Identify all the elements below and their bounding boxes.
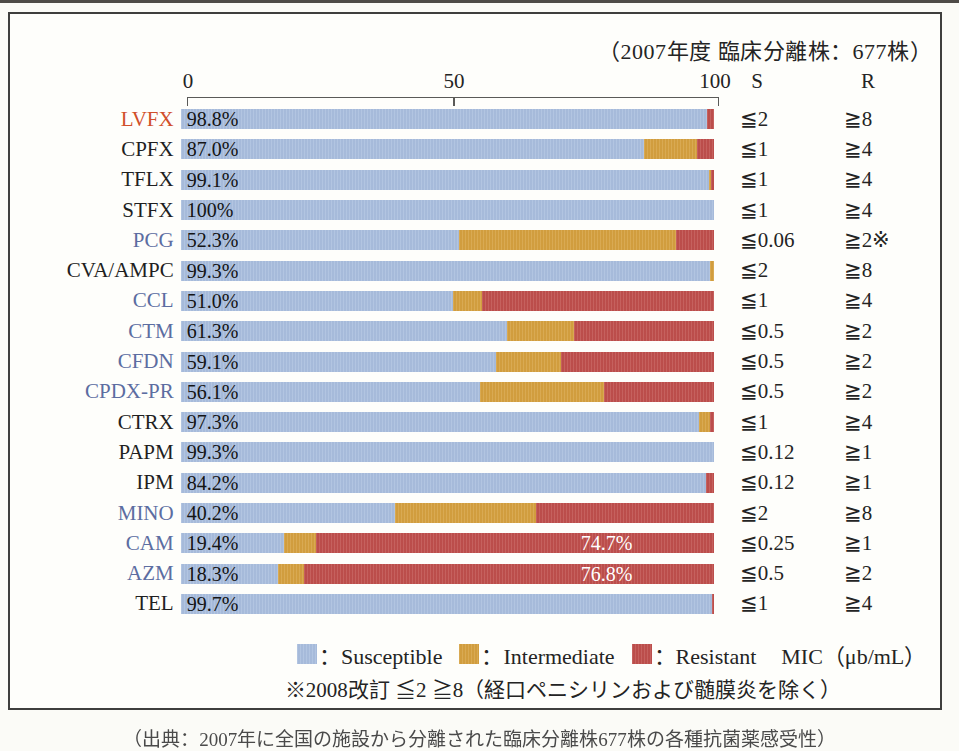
susceptible-segment (181, 200, 714, 220)
intermediate-segment (395, 503, 536, 523)
stacked-bar: 97.3% (181, 412, 714, 432)
drug-label: CTRX (10, 410, 174, 435)
legend-label-intermediate: ：Intermediate (481, 638, 614, 670)
resistant-segment (561, 352, 714, 372)
stacked-bar: 59.1% (181, 352, 714, 372)
chart-row: AZM18.3%76.8%≦0.5≧2 (10, 558, 940, 588)
intermediate-color-swatch (459, 644, 479, 664)
resistant-segment (676, 230, 713, 250)
chart-row: CTRX97.3%≦1≧4 (10, 407, 940, 437)
drug-label: CAM (10, 531, 174, 556)
mic-breakpoint-r: ≧4 (844, 198, 940, 223)
legend-label-susceptible: ：Susceptible (319, 638, 442, 670)
susceptible-segment (181, 170, 709, 190)
mic-breakpoint-r: ≧2 (844, 379, 940, 404)
mic-breakpoint-s: ≦0.25 (740, 531, 844, 556)
susceptible-segment (181, 473, 706, 493)
chart-row: LVFX98.8%≦2≧8 (10, 104, 940, 134)
mic-breakpoint-s: ≦1 (740, 591, 844, 616)
intermediate-segment (496, 352, 561, 372)
mic-breakpoint-r: ≧4 (844, 591, 940, 616)
drug-label: TFLX (10, 167, 174, 192)
susceptible-segment (181, 261, 710, 281)
legend-item-susceptible: ：Susceptible (297, 638, 442, 670)
resistant-segment (574, 321, 714, 341)
susceptible-segment (181, 442, 714, 462)
mic-breakpoint-s: ≦0.5 (740, 349, 844, 374)
resistant-segment (604, 382, 714, 402)
mic-unit-label: MIC（μb/mL） (781, 638, 926, 670)
stacked-bar: 51.0% (181, 291, 714, 311)
drug-label: PAPM (10, 440, 174, 465)
legend-item-resistant: ：Resistant (632, 638, 757, 670)
stacked-bar: 19.4%74.7% (181, 533, 714, 553)
susceptible-percent-label: 87.0% (187, 138, 239, 160)
resistant-segment (482, 291, 714, 311)
mic-breakpoint-r: ≧2 (844, 561, 940, 586)
chart-row: CTM61.3%≦0.5≧2 (10, 316, 940, 346)
susceptible-percent-label: 51.0% (187, 290, 239, 312)
mic-breakpoint-s: ≦1 (740, 137, 844, 162)
clipped-bottom-caption: （出典：2007年に全国の施設から分離された臨床分離株677株の各種抗菌薬感受性… (0, 724, 959, 751)
susceptible-color-swatch (297, 644, 317, 664)
mic-breakpoint-s: ≦2 (740, 258, 844, 283)
drug-label: IPM (10, 470, 174, 495)
mic-breakpoint-r: ≧1 (844, 470, 940, 495)
page-top-edge-strip (0, 0, 959, 3)
mic-breakpoint-r: ≧4 (844, 288, 940, 313)
chart-frame: （2007年度 臨床分離株：677株） 0 50 100 S R LVFX98.… (8, 12, 942, 710)
chart-row: TFLX99.1%≦1≧4 (10, 165, 940, 195)
axis-tick-50: 50 (444, 69, 465, 94)
mic-breakpoint-r: ≧2※ (844, 228, 940, 253)
susceptible-percent-label: 52.3% (187, 229, 239, 251)
susceptible-percent-label: 99.3% (187, 441, 239, 463)
drug-label: CPDX-PR (10, 379, 174, 404)
chart-row: CAM19.4%74.7%≦0.25≧1 (10, 528, 940, 558)
drug-label: TEL (10, 591, 174, 616)
mic-breakpoint-r: ≧8 (844, 501, 940, 526)
stacked-bar: 99.1% (181, 170, 714, 190)
mic-breakpoint-s: ≦0.5 (740, 561, 844, 586)
mic-breakpoint-s: ≦0.12 (740, 440, 844, 465)
stacked-bar: 40.2% (181, 503, 714, 523)
susceptible-percent-label: 99.7% (187, 593, 239, 615)
intermediate-segment (710, 261, 714, 281)
mic-breakpoint-s: ≦1 (740, 288, 844, 313)
stacked-bar: 84.2% (181, 473, 714, 493)
susceptible-percent-label: 19.4% (187, 532, 239, 554)
mic-breakpoint-s: ≦0.06 (740, 228, 844, 253)
susceptible-percent-label: 40.2% (187, 502, 239, 524)
resistant-segment (706, 473, 714, 493)
stacked-bar: 99.3% (181, 261, 714, 281)
stacked-bar: 18.3%76.8% (181, 564, 714, 584)
chart-title: （2007年度 臨床分離株：677株） (598, 33, 932, 65)
mic-breakpoint-s: ≦1 (740, 410, 844, 435)
mic-breakpoint-r: ≧4 (844, 167, 940, 192)
susceptible-percent-label: 56.1% (187, 381, 239, 403)
intermediate-segment (278, 564, 304, 584)
resistant-percent-label: 76.8% (581, 563, 633, 585)
intermediate-segment (459, 230, 676, 250)
legend-item-intermediate: ：Intermediate (459, 638, 614, 670)
column-header-r: R (861, 69, 875, 94)
footnote: ※2008改訂 ≦2 ≧8（経口ペニシリンおよび髄膜炎を除く） (186, 673, 940, 703)
susceptible-percent-label: 99.1% (187, 169, 239, 191)
mic-breakpoint-r: ≧1 (844, 440, 940, 465)
drug-label: LVFX (10, 107, 174, 132)
susceptible-percent-label: 100% (187, 199, 234, 221)
mic-breakpoint-r: ≧2 (844, 319, 940, 344)
susceptible-segment (181, 594, 712, 614)
intermediate-segment (453, 291, 482, 311)
resistant-segment (710, 412, 714, 432)
stacked-bar: 61.3% (181, 321, 714, 341)
resistant-segment (316, 533, 714, 553)
mic-breakpoint-r: ≧2 (844, 349, 940, 374)
mic-breakpoint-s: ≦0.12 (740, 470, 844, 495)
chart-row: TEL99.7%≦1≧4 (10, 589, 940, 619)
resistant-color-swatch (632, 644, 652, 664)
susceptible-percent-label: 97.3% (187, 411, 239, 433)
mic-breakpoint-s: ≦2 (740, 107, 844, 132)
susceptible-percent-label: 59.1% (187, 351, 239, 373)
chart-row: MINO40.2%≦2≧8 (10, 498, 940, 528)
drug-label: STFX (10, 198, 174, 223)
